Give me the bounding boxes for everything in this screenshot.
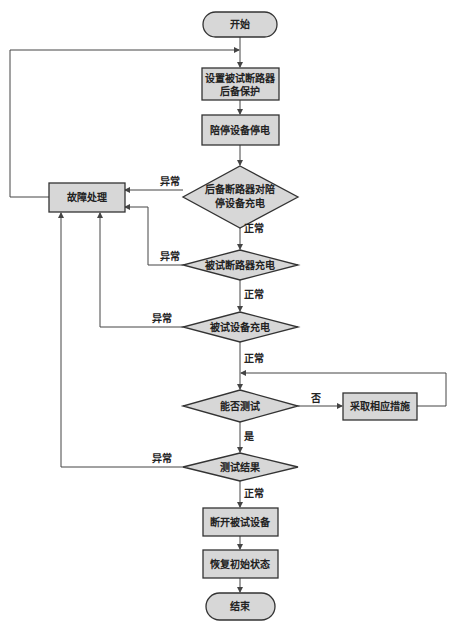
breaker-charge-label: 被试断路器充电 <box>205 259 275 271</box>
accompany-off-label: 陪停设备停电 <box>210 124 270 136</box>
device-charge-label: 被试设备充电 <box>210 321 270 333</box>
result-abnormal-label: 异常 <box>152 452 172 464</box>
result-normal-label: 正常 <box>244 487 264 499</box>
device-abnormal-label: 异常 <box>152 312 172 324</box>
can-test-yes-label: 是 <box>243 431 254 442</box>
breaker-normal-label: 正常 <box>244 288 264 300</box>
backup-charge-label-1: 后备断路器对陪 <box>205 183 275 195</box>
restore-label: 恢复初始状态 <box>210 558 270 570</box>
device-normal-label: 正常 <box>244 352 264 364</box>
backup-normal-label: 正常 <box>244 222 264 234</box>
test-result-label: 测试结果 <box>220 461 261 473</box>
flowchart: 开始 设置被试断路器 后备保护 陪停设备停电 后备断路器对陪 停设备充电 故障处… <box>0 0 454 626</box>
set-backup-label-2: 后备保护 <box>220 85 260 97</box>
can-test-label: 能否测试 <box>220 400 260 412</box>
start-label: 开始 <box>230 18 250 30</box>
set-backup-label-1: 设置被试断路器 <box>205 72 276 84</box>
backup-charge-diamond <box>183 166 298 228</box>
disconnect-label: 断开被试设备 <box>210 516 271 528</box>
can-test-no-label: 否 <box>310 393 321 404</box>
fault-handling-label: 故障处理 <box>67 191 107 203</box>
take-measures-label: 采取相应措施 <box>349 400 410 412</box>
end-label: 结束 <box>230 600 251 612</box>
breaker-abnormal-label: 异常 <box>160 250 180 262</box>
backup-charge-label-2: 停设备充电 <box>215 197 265 209</box>
edge-device-charge-abnormal <box>100 213 183 327</box>
backup-abnormal-label: 异常 <box>160 175 180 187</box>
